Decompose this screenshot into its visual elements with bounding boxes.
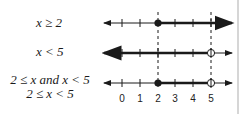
tick-label-4: 4 xyxy=(190,93,196,104)
tick-label-0: 0 xyxy=(119,93,125,104)
tick-label-1: 1 xyxy=(137,93,143,104)
tick-labels: 0 1 2 3 4 5 xyxy=(119,93,214,104)
tick-label-5: 5 xyxy=(208,93,214,104)
closed-endpoint-2-row3 xyxy=(154,79,161,86)
number-line-row-3 xyxy=(104,78,232,88)
number-lines-diagram: 0 1 2 3 4 5 xyxy=(0,0,246,114)
tick-label-3: 3 xyxy=(172,93,178,104)
number-line-row-1 xyxy=(104,19,232,27)
closed-endpoint-2 xyxy=(154,19,161,26)
right-edge-divider xyxy=(237,0,239,114)
number-line-row-2 xyxy=(104,48,232,58)
tick-label-2: 2 xyxy=(155,93,161,104)
